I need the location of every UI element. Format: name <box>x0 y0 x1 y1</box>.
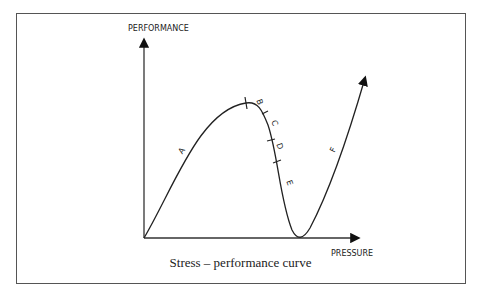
segment-ticks <box>245 97 281 163</box>
segment-label-c: C <box>269 119 280 128</box>
segment-label-a: A <box>177 145 188 155</box>
performance-curve <box>144 78 365 238</box>
segment-label-d: D <box>274 142 285 151</box>
segment-label-f: F <box>328 145 338 153</box>
y-axis-label: PERFORMANCE <box>128 24 189 33</box>
segment-label-b: B <box>254 98 264 106</box>
segment-label-e: E <box>284 179 294 187</box>
figure-caption: Stress – performance curve <box>0 255 481 271</box>
